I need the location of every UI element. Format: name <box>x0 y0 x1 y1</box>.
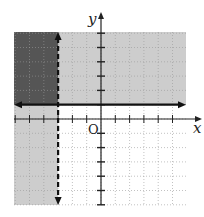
y-axis-label: y <box>87 10 97 28</box>
region-overlap <box>14 32 58 105</box>
inequality-graph: y x O <box>0 0 204 217</box>
x-axis-label: x <box>193 119 202 137</box>
origin-label: O <box>88 122 99 137</box>
y-axis-arrow-icon <box>98 12 104 19</box>
